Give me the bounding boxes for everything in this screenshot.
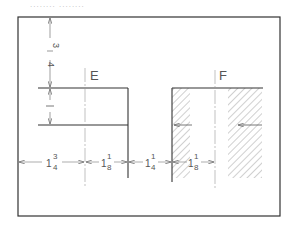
- view-label-e: E: [90, 68, 99, 83]
- svg-text:8: 8: [107, 163, 112, 172]
- vertical-dimension-1: [46, 89, 54, 124]
- svg-text:3: 3: [53, 152, 58, 161]
- vertical-dimension-3-4: 3 4: [46, 18, 61, 87]
- svg-text:1: 1: [46, 158, 52, 169]
- svg-text:1: 1: [107, 152, 112, 161]
- svg-text:8: 8: [194, 163, 199, 172]
- svg-text:1: 1: [151, 152, 156, 161]
- view-label-f: F: [219, 68, 227, 83]
- dim-label: 3: [51, 43, 61, 48]
- svg-text:4: 4: [151, 163, 156, 172]
- svg-text:4: 4: [53, 163, 58, 172]
- svg-text:1: 1: [194, 152, 199, 161]
- dim-label: 4: [46, 62, 56, 67]
- hatched-section-right: [228, 88, 262, 178]
- technical-drawing: 3 4 E F 1 3 4 1 1 8: [0, 0, 295, 227]
- view-f: F: [172, 68, 263, 188]
